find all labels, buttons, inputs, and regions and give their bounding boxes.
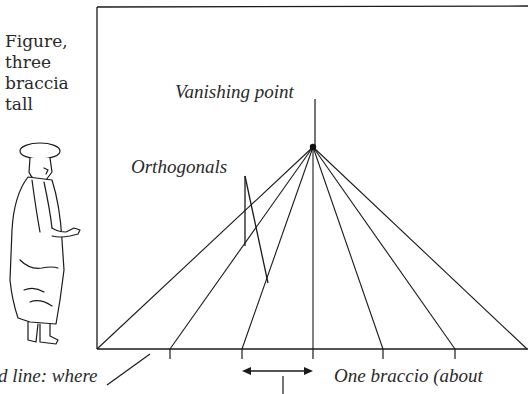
orthogonals-label: Orthogonals — [131, 156, 227, 178]
figure-caption-line: three — [5, 52, 69, 73]
ground-line-leader — [107, 354, 150, 385]
standing-figure-illustration — [10, 143, 80, 344]
figure-caption: Figure, three braccia tall — [5, 31, 69, 115]
figure-caption-line: Figure, — [5, 31, 69, 52]
vanishing-point-label: Vanishing point — [175, 81, 294, 103]
braccio-arrow — [242, 367, 313, 375]
perspective-diagram — [0, 0, 528, 394]
one-braccio-label: One braccio (about — [334, 365, 483, 387]
ground-line-label: d line: where — [0, 365, 98, 387]
figure-caption-line: tall — [5, 94, 69, 115]
braccio-ticks — [170, 349, 455, 359]
figure-caption-line: braccia — [5, 73, 69, 94]
